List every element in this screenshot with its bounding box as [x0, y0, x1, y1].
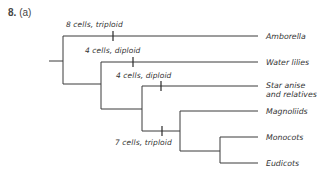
taxon-water-lilies: Water lilies [266, 58, 309, 67]
taxon-star-anise-line-1: Star anise [266, 81, 305, 90]
character-label-3: 4 cells, diploid [116, 71, 172, 80]
taxon-monocots: Monocots [266, 133, 303, 142]
taxon-eudicots: Eudicots [266, 159, 299, 168]
taxon-magnoliids: Magnoliids [266, 107, 308, 116]
taxon-star-anise-line-2: and relatives [266, 90, 317, 99]
character-label-4: 7 cells, triploid [115, 138, 172, 147]
phylogenetic-tree: 8 cells, triploid 4 cells, diploid 4 cel… [0, 0, 321, 177]
character-label-1: 8 cells, triploid [66, 20, 123, 29]
character-label-2: 4 cells, diploid [85, 46, 141, 55]
taxon-amborella: Amborella [265, 32, 306, 41]
